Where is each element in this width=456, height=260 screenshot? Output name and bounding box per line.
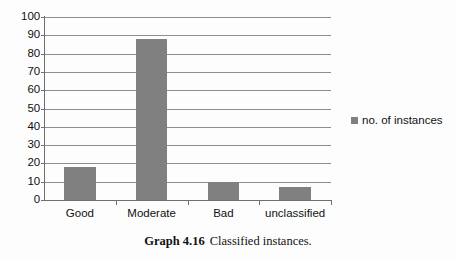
bar bbox=[208, 182, 240, 200]
x-axis-category-label: Moderate bbox=[116, 206, 188, 220]
caption-label: Graph 4.16 bbox=[144, 234, 204, 248]
legend-square-marker-icon bbox=[351, 117, 358, 124]
y-axis-tick-mark bbox=[41, 35, 45, 36]
x-axis-category-label: Good bbox=[44, 206, 116, 220]
y-axis-tick-mark bbox=[41, 127, 45, 128]
x-axis-category-label: Bad bbox=[188, 206, 260, 220]
y-axis-tick-label: 100 bbox=[2, 11, 40, 22]
y-axis-tick-label: 20 bbox=[2, 157, 40, 168]
x-axis-tick-mark bbox=[188, 200, 189, 205]
bars-layer bbox=[44, 17, 331, 200]
y-axis-tick-mark bbox=[41, 17, 45, 18]
x-axis-category-labels: GoodModerateBadunclassified bbox=[44, 206, 331, 226]
y-axis-tick-label: 90 bbox=[2, 29, 40, 40]
y-axis-tick-mark bbox=[41, 54, 45, 55]
y-axis-tick-labels: 0102030405060708090100 bbox=[0, 0, 40, 260]
legend-entry-label: no. of instances bbox=[362, 114, 443, 126]
caption-text: Classified instances. bbox=[210, 234, 312, 248]
chart-legend: no. of instances bbox=[351, 114, 443, 126]
y-axis-tick-label: 40 bbox=[2, 121, 40, 132]
y-axis-tick-mark bbox=[41, 145, 45, 146]
y-axis-tick-mark bbox=[41, 182, 45, 183]
x-axis-tick-mark bbox=[259, 200, 260, 205]
y-axis-tick-label: 70 bbox=[2, 66, 40, 77]
bar bbox=[64, 167, 96, 200]
y-axis-tick-label: 10 bbox=[2, 176, 40, 187]
y-axis-tick-mark bbox=[41, 163, 45, 164]
x-axis-category-label: unclassified bbox=[259, 206, 331, 220]
y-axis-tick-label: 30 bbox=[2, 139, 40, 150]
y-axis-tick-mark bbox=[41, 72, 45, 73]
y-axis-tick-label: 0 bbox=[2, 194, 40, 205]
y-axis-tick-mark bbox=[41, 200, 45, 201]
x-axis-end-tick bbox=[331, 200, 332, 205]
y-axis-tick-mark bbox=[41, 90, 45, 91]
bar bbox=[279, 187, 311, 200]
y-axis-tick-mark bbox=[41, 109, 45, 110]
x-axis-tick-mark bbox=[116, 200, 117, 205]
y-axis-tick-label: 60 bbox=[2, 84, 40, 95]
figure-caption: Graph 4.16Classified instances. bbox=[0, 234, 456, 249]
bar-chart-figure: 0102030405060708090100 GoodModerateBadun… bbox=[0, 0, 456, 260]
y-axis-tick-label: 50 bbox=[2, 103, 40, 114]
y-axis-tick-label: 80 bbox=[2, 48, 40, 59]
bar bbox=[136, 39, 168, 200]
